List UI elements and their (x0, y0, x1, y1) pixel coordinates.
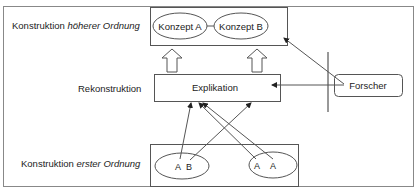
level-label-reconstruction: Rekonstruktion (78, 83, 141, 94)
block-arrow-up-left-icon (162, 49, 182, 72)
explication-label: Explikation (192, 82, 238, 93)
diagram-canvas: Konstruktion höherer Ordnung Rekonstrukt… (0, 0, 418, 191)
first-order-box (151, 145, 299, 187)
concept-a-label: Konzept A (158, 21, 202, 32)
group-ab-item-b: B (186, 162, 192, 172)
level-label-higher-order: Konstruktion höherer Ordnung (12, 20, 141, 31)
group-aa-item-1: A (254, 161, 260, 171)
researcher-to-concepts-arrow (284, 38, 344, 84)
level-label-first-order: Konstruktion erster Ordnung (21, 158, 141, 169)
concept-b-label: Konzept B (219, 21, 263, 32)
group-ab-item-a: A (175, 162, 181, 172)
group-aa-item-2: A (270, 161, 276, 171)
researcher-label: Forscher (349, 80, 386, 91)
block-arrow-up-right-icon (247, 49, 267, 72)
